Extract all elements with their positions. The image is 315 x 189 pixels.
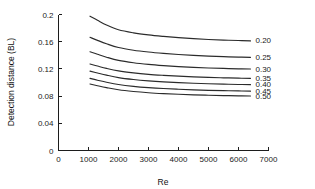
y-tick-label: 0.04	[38, 119, 54, 128]
series-label: 0.20	[256, 36, 272, 45]
y-tick-label: 0.16	[38, 38, 54, 47]
series-line	[90, 84, 251, 96]
series-label: 0.50	[256, 92, 272, 101]
series-label: 0.30	[256, 65, 272, 74]
x-tick-label: 5000	[200, 155, 218, 164]
x-tick-label: 2000	[110, 155, 128, 164]
x-tick-label: 6000	[230, 155, 248, 164]
chart-figure: 00.040.080.120.160.2 0100020003000400050…	[0, 0, 315, 189]
series-line	[90, 16, 251, 41]
y-axis-title: Detection distance (BL)	[6, 38, 16, 127]
x-axis-tick-labels: 01000200030004000500060007000	[56, 155, 278, 164]
axis-spines	[59, 15, 269, 151]
x-axis-title: Re	[158, 177, 169, 187]
series-label: 0.25	[256, 53, 272, 62]
y-axis-tick-labels: 00.040.080.120.160.2	[38, 11, 54, 156]
data-series	[90, 16, 251, 96]
x-tick-label: 7000	[260, 155, 278, 164]
series-end-labels: 0.200.250.300.350.400.450.50	[256, 36, 272, 100]
x-tick-label: 4000	[170, 155, 188, 164]
y-tick-label: 0.08	[38, 92, 54, 101]
x-tick-label: 1000	[80, 155, 98, 164]
y-tick-label: 0.12	[38, 65, 54, 74]
x-tick-label: 0	[56, 155, 61, 164]
x-tick-label: 3000	[140, 155, 158, 164]
y-tick-label: 0.2	[42, 11, 54, 20]
line-chart-canvas: 00.040.080.120.160.2 0100020003000400050…	[0, 0, 315, 189]
y-tick-label: 0	[49, 147, 54, 156]
axes: 00.040.080.120.160.2 0100020003000400050…	[38, 11, 278, 164]
